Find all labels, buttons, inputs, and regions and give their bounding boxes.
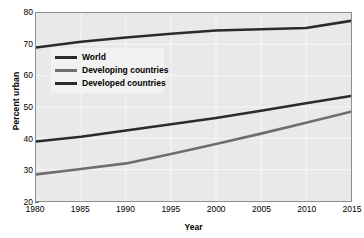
- y-tick-mark: [35, 202, 39, 203]
- y-tick-label: 30: [0, 165, 33, 175]
- x-tick-label: 1980: [15, 204, 55, 214]
- legend-swatch: [55, 56, 77, 60]
- y-tick-label: 40: [0, 134, 33, 144]
- legend-label: World: [82, 53, 106, 62]
- line-chart: Percent urban 20304050607080 19801985199…: [0, 0, 364, 238]
- legend-item: Developed countries: [55, 77, 160, 90]
- x-tick-label: 1985: [60, 204, 100, 214]
- x-tick-label: 2005: [241, 204, 281, 214]
- series-line: [36, 21, 351, 48]
- series-line: [36, 96, 351, 141]
- legend-swatch: [55, 82, 77, 86]
- y-tick-label: 80: [0, 7, 33, 17]
- y-tick-label: 50: [0, 102, 33, 112]
- chart-legend: WorldDeveloping countriesDeveloped count…: [51, 48, 164, 93]
- y-tick-label: 60: [0, 70, 33, 80]
- x-tick-label: 1990: [106, 204, 146, 214]
- x-tick-label: 2015: [332, 204, 364, 214]
- plot-area: [35, 12, 352, 202]
- legend-label: Developing countries: [82, 66, 168, 75]
- legend-item: Developing countries: [55, 64, 160, 77]
- x-tick-label: 2010: [287, 204, 327, 214]
- x-axis-title: Year: [35, 222, 352, 232]
- x-tick-label: 1995: [151, 204, 191, 214]
- x-tick-label: 2000: [196, 204, 236, 214]
- legend-label: Developed countries: [82, 79, 166, 88]
- plot-svg: [36, 13, 351, 201]
- legend-item: World: [55, 51, 160, 64]
- y-tick-label: 70: [0, 39, 33, 49]
- legend-swatch: [55, 69, 77, 73]
